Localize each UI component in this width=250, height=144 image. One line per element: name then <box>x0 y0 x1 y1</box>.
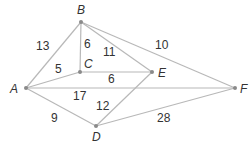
node-F <box>233 86 237 90</box>
node-E <box>150 70 154 74</box>
node-A <box>24 86 28 90</box>
node-D <box>94 124 98 128</box>
node-label-D: D <box>92 130 101 144</box>
node-label-F: F <box>240 82 248 96</box>
edge-A-B <box>26 22 81 88</box>
node-B <box>79 20 83 24</box>
edge-weight-A-F: 17 <box>73 89 87 103</box>
weighted-graph: 1361110561712928ABCDEF <box>0 0 250 144</box>
edge-weight-B-C: 6 <box>84 37 91 51</box>
node-label-B: B <box>77 3 85 17</box>
edge-weight-D-E: 12 <box>96 99 110 113</box>
edge-A-C <box>26 72 80 88</box>
node-label-A: A <box>9 82 18 96</box>
edge-weight-B-F: 10 <box>155 38 169 52</box>
edge-weight-B-E: 11 <box>103 45 116 59</box>
edge-weight-C-E: 6 <box>108 72 115 86</box>
edge-B-C <box>80 22 81 72</box>
edge-weight-A-B: 13 <box>36 39 50 53</box>
node-C <box>78 70 82 74</box>
edge-weight-A-D: 9 <box>51 111 58 125</box>
edge-weight-A-C: 5 <box>55 62 62 76</box>
node-label-E: E <box>158 66 167 80</box>
node-label-C: C <box>84 57 93 71</box>
edge-weight-D-F: 28 <box>157 111 171 125</box>
